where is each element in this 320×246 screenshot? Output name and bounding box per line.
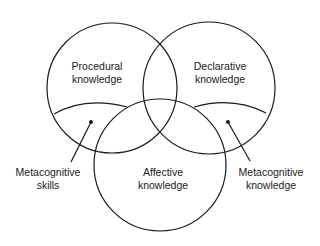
declarative-label-1: Declarative xyxy=(194,60,247,72)
metacognitive-skills-label-2: skills xyxy=(37,179,60,191)
metacognitive-knowledge-label-1: Metacognitive xyxy=(239,166,304,178)
metacognitive-knowledge-arc xyxy=(194,103,266,113)
declarative-label-2: knowledge xyxy=(195,73,245,85)
metacognitive-skills-leader xyxy=(71,122,91,162)
metacognitive-knowledge-label-2: knowledge xyxy=(246,179,296,191)
affective-label-2: knowledge xyxy=(138,179,188,191)
declarative-circle xyxy=(143,22,275,154)
procedural-label-2: knowledge xyxy=(72,73,122,85)
affective-label-1: Affective xyxy=(143,166,183,178)
procedural-circle xyxy=(47,23,177,153)
venn-diagram: Procedural knowledge Declarative knowled… xyxy=(0,0,320,246)
procedural-label-1: Procedural xyxy=(72,60,123,72)
metacognitive-skills-label-1: Metacognitive xyxy=(16,166,81,178)
metacognitive-skills-dot xyxy=(89,120,93,124)
metacognitive-skills-arc xyxy=(54,103,127,114)
metacognitive-knowledge-dot xyxy=(226,120,230,124)
affective-circle xyxy=(94,99,226,231)
